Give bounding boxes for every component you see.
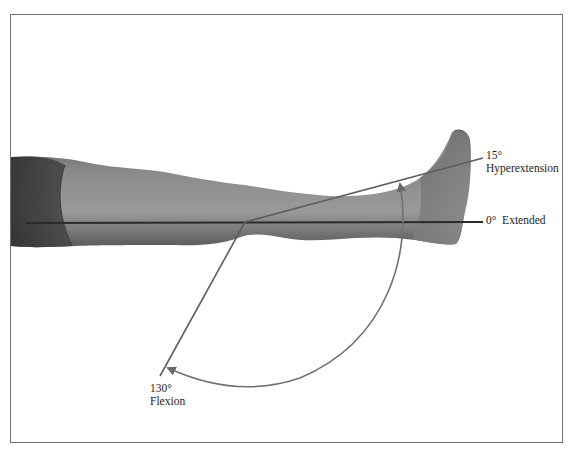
flexion-angle: 130° (150, 382, 185, 395)
extended-name: Extended (502, 214, 545, 226)
hyperextension-name: Hyperextension (486, 162, 559, 175)
flexion-line (160, 222, 245, 376)
knee-range-of-motion-diagram (0, 0, 572, 454)
extended-label: 0° Extended (486, 214, 546, 227)
flexion-label: 130° Flexion (150, 382, 185, 408)
extended-angle: 0° (486, 214, 496, 226)
hyperextension-angle: 15° (486, 149, 559, 162)
flexion-name: Flexion (150, 395, 185, 408)
hyperextension-label: 15° Hyperextension (486, 149, 559, 175)
extended-reference-line (26, 222, 483, 223)
